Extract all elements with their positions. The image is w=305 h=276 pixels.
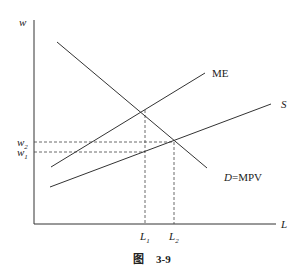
L2-label: L2 xyxy=(168,230,179,245)
s-label: S xyxy=(281,98,287,110)
figure-caption-number: 3-9 xyxy=(156,253,171,265)
d-label: D=MPV xyxy=(223,171,262,183)
L1-label: L1 xyxy=(139,230,150,245)
y-axis-label: w xyxy=(19,16,27,28)
d-label-rest: =MPV xyxy=(232,171,262,183)
me-label: ME xyxy=(212,67,229,79)
figure-caption-prefix: 图 xyxy=(133,253,144,265)
d-label-italic: D xyxy=(223,171,232,183)
me-curve xyxy=(51,73,205,167)
labor-market-diagram: w L ME S D=MPV w2 w1 L1 L2 图 3-9 xyxy=(0,0,305,276)
x-axis-label: L xyxy=(280,218,287,230)
